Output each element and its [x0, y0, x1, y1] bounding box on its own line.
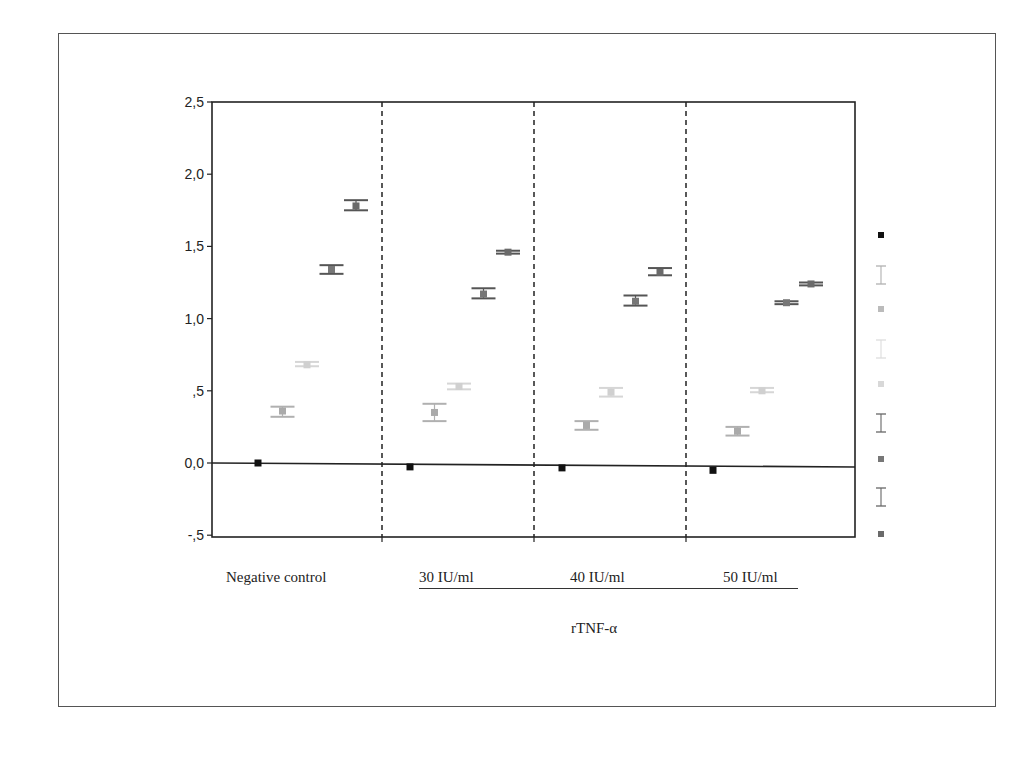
data-point-marker: [407, 463, 414, 470]
data-point-marker: [304, 361, 311, 368]
y-tick-label: 2,5: [185, 94, 205, 110]
y-tick-label: -,5: [188, 527, 205, 543]
data-point-marker: [353, 202, 360, 209]
y-tick-label: 2,0: [185, 166, 205, 182]
data-point-marker: [559, 464, 566, 471]
data-point-marker: [759, 387, 766, 394]
data-point-marker: [632, 298, 639, 305]
data-point-marker: [480, 291, 487, 298]
data-point-marker: [657, 269, 664, 276]
y-tick-label: 0,0: [185, 455, 205, 471]
error-bar-chart: 2,52,01,51,0,50,0-,5: [0, 0, 1026, 757]
data-point-marker: [255, 460, 262, 467]
data-point-marker: [808, 280, 815, 287]
legend-marker-icon: [878, 232, 884, 238]
x-label-40: 40 IU/ml: [570, 569, 625, 586]
legend-marker-icon: [878, 381, 884, 387]
y-tick-label: ,5: [192, 383, 204, 399]
data-point-marker: [583, 422, 590, 429]
legend-marker-icon: [878, 306, 884, 312]
data-point-marker: [710, 467, 717, 474]
data-point-marker: [328, 266, 335, 273]
legend-marker-icon: [878, 531, 884, 537]
x-label-negative-control: Negative control: [226, 569, 326, 586]
y-tick-label: 1,0: [185, 311, 205, 327]
legend-marker-icon: [878, 456, 884, 462]
data-point-marker: [734, 428, 741, 435]
data-point-marker: [431, 409, 438, 416]
data-point-marker: [456, 383, 463, 390]
data-point-marker: [783, 299, 790, 306]
y-tick-label: 1,5: [185, 238, 205, 254]
group-underline: [419, 588, 798, 589]
data-point-marker: [505, 249, 512, 256]
x-axis-group-label: rTNF-α: [571, 620, 617, 637]
x-label-50: 50 IU/ml: [723, 569, 778, 586]
data-point-marker: [279, 408, 286, 415]
x-label-30: 30 IU/ml: [419, 569, 474, 586]
data-point-marker: [608, 389, 615, 396]
